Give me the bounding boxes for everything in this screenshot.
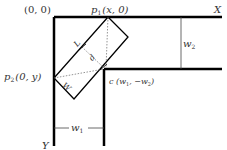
label-c: c (w1, −w2): [109, 77, 154, 87]
label-x-axis: X: [213, 4, 222, 15]
label-p2: p2(0, y): [4, 71, 42, 83]
corridor-diagram: (0, 0) p1(x, 0) p2(0, y) c (w1, −w2) X Y…: [0, 0, 227, 150]
label-W: W: [60, 81, 73, 94]
label-w2: w2: [183, 38, 196, 50]
label-origin: (0, 0): [24, 4, 51, 15]
label-d: d: [87, 53, 97, 63]
label-p1: p1(x, 0): [91, 4, 128, 16]
label-y-axis: Y: [42, 140, 50, 150]
label-w1: w1: [71, 122, 83, 134]
